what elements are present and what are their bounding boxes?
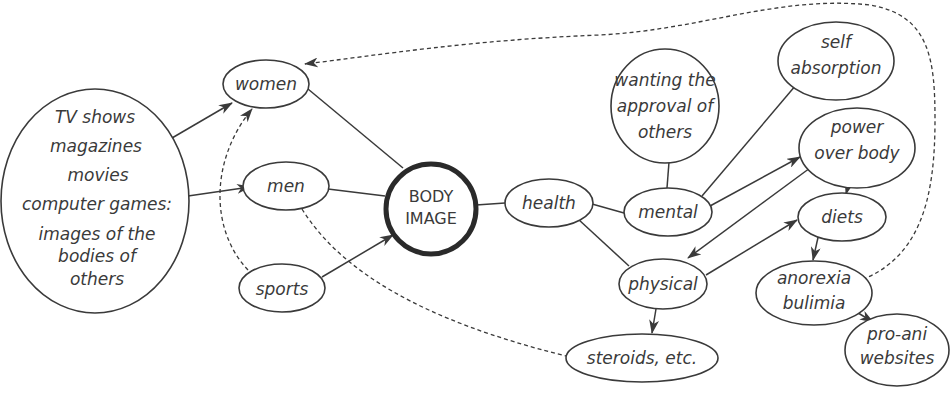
- edge-sports-body-image: [322, 235, 393, 277]
- node-health: health: [505, 179, 593, 227]
- node-media: TV shows magazines movies computer games…: [1, 89, 189, 313]
- svg-text:magazines: magazines: [50, 136, 142, 156]
- svg-text:movies: movies: [67, 165, 128, 185]
- svg-text:pro-ani: pro-ani: [866, 324, 928, 344]
- edge-women-body-image: [308, 89, 403, 168]
- node-anorexia-bulimia: anorexia bulimia: [756, 261, 872, 325]
- svg-text:bodies of: bodies of: [58, 246, 139, 266]
- node-mental: mental: [624, 188, 712, 236]
- svg-text:bulimia: bulimia: [783, 293, 846, 313]
- node-wanting-approval: wanting the approval of others: [611, 49, 719, 163]
- svg-text:mental: mental: [638, 202, 698, 222]
- svg-text:BODY: BODY: [409, 187, 454, 206]
- edge-approval-mental: [667, 162, 669, 188]
- node-pro-ani: pro-ani websites: [845, 314, 949, 386]
- svg-text:men: men: [267, 176, 305, 196]
- svg-text:images of the: images of the: [39, 224, 156, 244]
- svg-text:physical: physical: [627, 274, 698, 294]
- svg-text:self: self: [821, 32, 854, 52]
- svg-text:IMAGE: IMAGE: [405, 209, 457, 228]
- edge-media-men: [188, 187, 250, 196]
- node-body-image: BODY IMAGE: [386, 164, 476, 254]
- svg-text:power: power: [830, 117, 885, 137]
- svg-text:TV shows: TV shows: [55, 107, 135, 127]
- node-sports: sports: [239, 264, 325, 312]
- svg-text:wanting the: wanting the: [614, 70, 715, 90]
- edge-mental-power: [710, 157, 800, 206]
- svg-text:approval of: approval of: [617, 96, 716, 116]
- svg-text:anorexia: anorexia: [777, 268, 851, 288]
- node-diets: diets: [798, 193, 886, 241]
- svg-text:websites: websites: [860, 348, 935, 368]
- svg-text:steroids, etc.: steroids, etc.: [587, 348, 697, 368]
- edge-media-women: [172, 103, 232, 138]
- svg-text:women: women: [235, 74, 297, 94]
- node-women: women: [223, 60, 309, 108]
- edge-health-mental: [592, 204, 624, 213]
- node-self-absorption: self absorption: [778, 22, 894, 100]
- node-steroids: steroids, etc.: [566, 334, 718, 382]
- edge-men-body-image: [328, 189, 385, 196]
- svg-text:absorption: absorption: [791, 58, 882, 78]
- svg-text:computer games:: computer games:: [22, 194, 172, 214]
- concept-map: TV shows magazines movies computer games…: [0, 0, 950, 393]
- edge-body-image-health: [476, 203, 505, 205]
- node-power-over-body: power over body: [799, 108, 915, 188]
- svg-text:others: others: [638, 122, 692, 142]
- svg-text:sports: sports: [256, 279, 309, 299]
- svg-text:diets: diets: [821, 207, 863, 227]
- svg-text:others: others: [70, 269, 124, 289]
- svg-text:over body: over body: [814, 143, 900, 163]
- node-physical: physical: [619, 259, 707, 309]
- edge-health-physical: [578, 219, 629, 266]
- svg-text:health: health: [522, 193, 576, 213]
- node-men: men: [243, 162, 329, 210]
